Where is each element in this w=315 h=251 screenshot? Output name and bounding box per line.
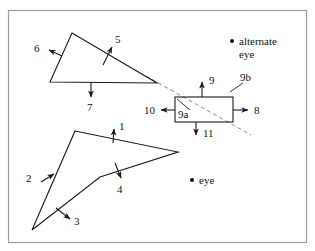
edge-label-7: 7 <box>87 101 93 113</box>
edge-label-11: 11 <box>203 127 214 139</box>
figure-container: 5 6 7 1 2 3 4 9 9b 9a 10 <box>0 0 315 251</box>
edge-label-3: 3 <box>74 215 80 227</box>
alternate-eye-label-line2: eye <box>239 48 254 60</box>
edge-arrow-6 <box>49 50 62 56</box>
edge-arrow-3 <box>56 208 70 219</box>
edge-label-9b: 9b <box>240 71 252 83</box>
lower-concave-polygon <box>32 131 178 230</box>
edge-label-9: 9 <box>209 74 215 86</box>
alternate-eye-label-line1: alternate <box>239 35 277 47</box>
edge-label-9a: 9a <box>178 108 189 120</box>
edge-label-2: 2 <box>26 172 32 184</box>
edge-label-8: 8 <box>254 104 260 116</box>
eye-point-label: eye <box>199 174 214 186</box>
diagram-canvas: 5 6 7 1 2 3 4 9 9b 9a 10 <box>0 0 315 251</box>
alternate-eye-point-dot <box>230 39 234 43</box>
edge-arrow-2 <box>41 174 54 182</box>
upper-triangle <box>50 33 157 83</box>
eye-point-dot <box>190 178 194 182</box>
leader-line-9b <box>230 83 243 92</box>
dashed-sight-ray <box>146 76 251 135</box>
edge-label-5: 5 <box>115 33 121 45</box>
edge-label-6: 6 <box>34 42 40 54</box>
edge-label-4: 4 <box>117 183 123 195</box>
edge-label-1: 1 <box>119 120 125 132</box>
edge-label-10: 10 <box>144 104 156 116</box>
edge-arrow-1 <box>113 129 114 143</box>
